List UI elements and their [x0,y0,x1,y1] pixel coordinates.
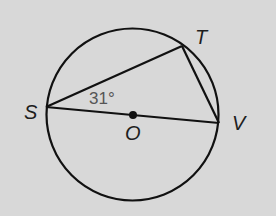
center-point-o [129,111,137,119]
label-t: T [195,26,209,48]
label-s: S [24,101,38,123]
label-v: V [232,112,247,134]
label-o: O [125,122,141,144]
diagram-canvas: S T V O 31° [0,0,276,216]
circle-diagram: S T V O 31° [0,0,276,216]
angle-label-s: 31° [89,89,115,108]
